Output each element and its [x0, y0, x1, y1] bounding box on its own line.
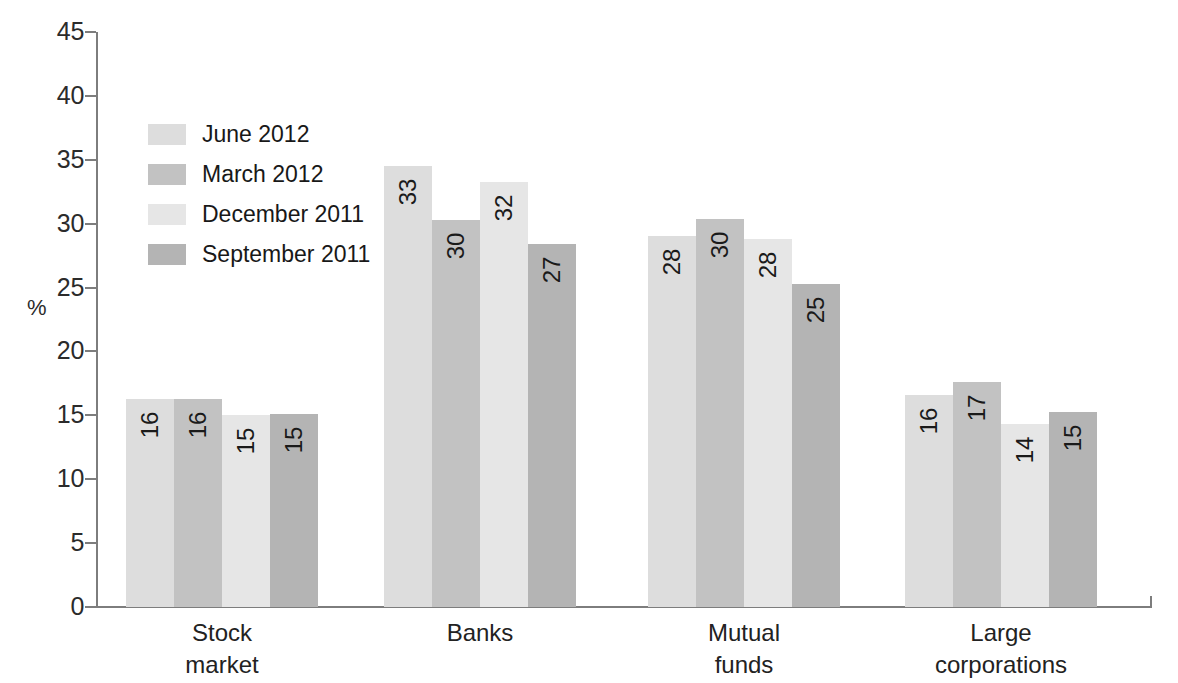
y-axis-tick-label: 40	[36, 83, 84, 108]
bar-value-label: 16	[138, 412, 162, 438]
y-axis-tick	[85, 159, 96, 161]
bar-value-label: 30	[708, 231, 732, 257]
bar-value-label: 32	[492, 194, 516, 220]
bar-value-label: 28	[756, 252, 780, 278]
x-axis-category-label: Banks	[360, 617, 600, 649]
bar[interactable]: 15	[222, 415, 270, 607]
x-axis-end-tick	[1150, 596, 1152, 608]
y-axis-tick-label: 45	[36, 19, 84, 44]
y-axis-tick-label: 30	[36, 211, 84, 236]
bar-value-label: 15	[1061, 424, 1085, 450]
x-axis-category-label: Mutual funds	[624, 617, 864, 682]
y-axis-tick	[85, 31, 96, 33]
y-axis-tick-label: 15	[36, 402, 84, 427]
bar-value-label: 15	[282, 427, 306, 453]
bar-value-label: 27	[540, 257, 564, 283]
bar-chart: % 051015202530354045 June 2012March 2012…	[0, 0, 1178, 683]
y-axis-tick-label: 5	[36, 530, 84, 555]
y-axis-tick	[85, 414, 96, 416]
bar[interactable]: 15	[270, 414, 318, 607]
y-axis-tick	[85, 542, 96, 544]
y-axis-tick	[85, 287, 96, 289]
bar-value-label: 17	[965, 395, 989, 421]
bar[interactable]: 30	[432, 220, 480, 607]
bar[interactable]: 16	[905, 395, 953, 607]
y-axis-tick	[85, 350, 96, 352]
bar[interactable]: 16	[126, 399, 174, 607]
y-axis-tick	[85, 223, 96, 225]
plot-area: 16161515333032272830282516171415	[96, 32, 1150, 607]
bar[interactable]: 16	[174, 399, 222, 607]
y-axis-label: %	[27, 297, 47, 319]
bar-value-label: 33	[396, 179, 420, 205]
y-axis-tick-label: 20	[36, 338, 84, 363]
bar[interactable]: 30	[696, 219, 744, 607]
bar-value-label: 16	[186, 412, 210, 438]
y-axis-tick	[85, 606, 96, 608]
y-axis-tick	[85, 478, 96, 480]
bar[interactable]: 14	[1001, 424, 1049, 607]
y-axis-tick-label: 35	[36, 147, 84, 172]
y-axis-tick-label: 10	[36, 466, 84, 491]
bar[interactable]: 15	[1049, 412, 1097, 608]
bar[interactable]: 33	[384, 166, 432, 607]
y-axis-tick	[85, 95, 96, 97]
bar[interactable]: 17	[953, 382, 1001, 607]
bar[interactable]: 27	[528, 244, 576, 607]
bar-value-label: 15	[234, 428, 258, 454]
x-axis-category-label: Stock market	[102, 617, 342, 682]
y-axis-tick-label: 25	[36, 275, 84, 300]
bar-value-label: 25	[804, 297, 828, 323]
y-axis-tick-label: 0	[36, 594, 84, 619]
bar[interactable]: 28	[648, 236, 696, 607]
bar[interactable]: 32	[480, 182, 528, 608]
bar[interactable]: 28	[744, 239, 792, 607]
bar-value-label: 16	[917, 408, 941, 434]
x-axis-category-label: Large corporations	[881, 617, 1121, 682]
bar-value-label: 28	[660, 249, 684, 275]
bar-value-label: 30	[444, 233, 468, 259]
bar[interactable]: 25	[792, 284, 840, 607]
bar-value-label: 14	[1013, 437, 1037, 463]
